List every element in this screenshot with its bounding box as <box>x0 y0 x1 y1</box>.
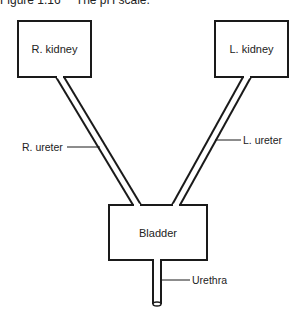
urethra-label: Urethra <box>192 274 227 286</box>
r-ureter-label: R. ureter <box>22 141 63 153</box>
l-kidney-label: L. kidney <box>215 43 288 55</box>
r-ureter-tube <box>56 77 141 205</box>
l-ureter-tube <box>172 77 251 205</box>
r-kidney-label: R. kidney <box>18 43 91 55</box>
urethra-tube <box>153 260 161 306</box>
l-ureter-label: L. ureter <box>243 134 282 146</box>
bladder-label: Bladder <box>109 227 207 239</box>
